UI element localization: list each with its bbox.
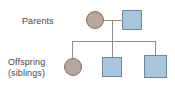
sibship-line-connector (72, 41, 156, 42)
child-line-connector-2 (112, 41, 113, 58)
descent-line-connector (112, 20, 113, 41)
parent-female-circle-symbol (86, 11, 104, 29)
parent-male-square-symbol (122, 10, 142, 30)
offspring-female-circle-symbol (64, 58, 82, 76)
generation-label-offspring-line2: (siblings) (8, 68, 45, 79)
child-line-connector-3 (155, 41, 156, 56)
offspring-male-square-symbol-2 (144, 55, 167, 78)
child-line-connector-1 (72, 41, 73, 59)
generation-label-parents: Parents (22, 16, 54, 27)
pedigree-diagram: Parents Offspring (siblings) (0, 0, 175, 92)
offspring-male-square-symbol-1 (102, 57, 122, 77)
generation-label-offspring-line1: Offspring (8, 57, 45, 68)
generation-label-offspring: Offspring (siblings) (8, 57, 45, 79)
mating-line-connector (103, 20, 123, 21)
